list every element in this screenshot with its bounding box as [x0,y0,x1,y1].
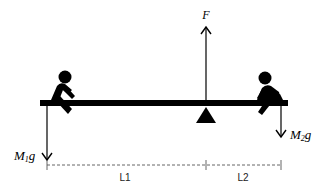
dimension-line [47,160,281,170]
force-m1g-label: M1g [13,148,36,164]
force-f-label: F [201,8,210,22]
distance-l2-label: L2 [237,172,249,183]
distance-l1-label: L1 [119,172,131,183]
force-f-arrow [201,27,211,102]
force-m2g-arrow [276,106,286,137]
person-right-icon [257,72,284,116]
fulcrum-triangle [196,107,216,123]
seesaw-beam [40,100,288,106]
person-left-icon [51,71,75,115]
seesaw-diagram: F M1g M2g [0,0,330,189]
force-m1g-arrow [42,106,52,160]
force-m2g-label: M2g [289,127,312,143]
